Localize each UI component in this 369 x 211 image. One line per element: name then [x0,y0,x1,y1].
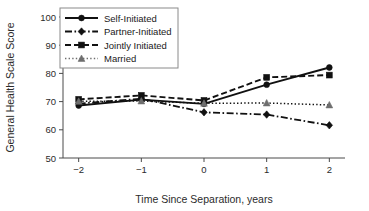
x-tick-label: −1 [136,164,147,175]
data-point [201,109,207,116]
marker-diamond [263,111,269,118]
y-tick-label: 60 [45,124,56,135]
x-axis-title: Time Since Separation, years [135,193,272,205]
legend-label: Partner-Initiated [104,26,172,37]
data-point [264,74,270,80]
y-tick-label: 80 [45,68,56,79]
marker-triangle [263,100,270,106]
marker-square [79,42,85,48]
line-chart: 5060708090100General Health Scale Score−… [0,0,369,211]
x-tick-label: 2 [327,164,332,175]
legend-marker [79,42,85,48]
data-point [263,111,269,118]
x-tick-label: 0 [201,164,206,175]
data-point [326,122,332,129]
data-point [263,100,270,106]
marker-triangle [326,101,333,107]
legend-label: Self-Initiated [104,13,157,24]
marker-square [326,72,332,78]
data-point [326,72,332,78]
marker-diamond [201,109,207,116]
data-point [326,65,332,71]
legend-label: Married [104,53,136,64]
x-tick-label: −2 [73,164,84,175]
y-tick-label: 70 [45,96,56,107]
y-axis-title: General Health Scale Score [4,22,16,152]
data-point [326,101,333,107]
legend-marker [79,15,85,21]
data-point [264,82,270,88]
marker-square [264,74,270,80]
series-line-jointly-initiated [79,75,330,100]
marker-circle [326,65,332,71]
y-tick-label: 50 [45,153,56,164]
chart-figure: 5060708090100General Health Scale Score−… [0,0,369,211]
marker-diamond [326,122,332,129]
legend-label: Jointly Initiated [104,40,167,51]
y-tick-label: 100 [40,12,56,23]
marker-circle [264,82,270,88]
x-tick-label: 1 [264,164,269,175]
marker-circle [79,15,85,21]
y-tick-label: 90 [45,40,56,51]
